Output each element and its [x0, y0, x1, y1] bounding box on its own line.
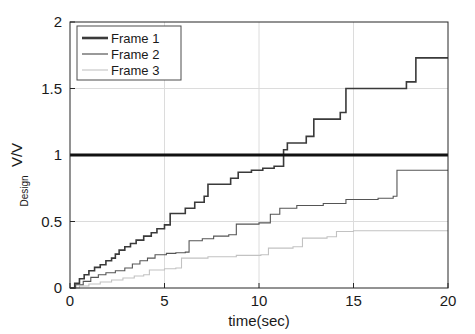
y-axis-title-subscript: Design	[19, 175, 30, 206]
x-tick-label: 5	[160, 292, 168, 309]
x-axis-title: time(sec)	[228, 312, 290, 329]
y-tick-label: 0.5	[41, 213, 62, 230]
y-tick-label: 2	[54, 13, 62, 30]
x-tick-label: 20	[440, 292, 457, 309]
legend-label-frame-3: Frame 3	[111, 63, 159, 78]
legend[interactable]: Frame 1 Frame 2 Frame 3	[77, 26, 181, 80]
legend-label-frame-2: Frame 2	[111, 47, 159, 62]
y-tick-label: 0	[54, 279, 62, 296]
chart-figure: 05101520 00.511.52 time(sec) V/V Design …	[0, 0, 475, 334]
y-tick-label: 1.5	[41, 80, 62, 97]
legend-label-frame-1: Frame 1	[111, 31, 159, 46]
x-tick-labels: 05101520	[66, 292, 457, 309]
y-tick-label: 1	[54, 146, 62, 163]
y-axis-title: V/V Design	[8, 143, 30, 207]
y-axis-title-main: V/V	[8, 143, 25, 167]
x-tick-label: 15	[345, 292, 362, 309]
x-tick-label: 10	[251, 292, 268, 309]
y-tick-labels: 00.511.52	[41, 13, 62, 296]
x-tick-label: 0	[66, 292, 74, 309]
plot-canvas: 05101520 00.511.52 time(sec) V/V Design …	[0, 0, 475, 334]
